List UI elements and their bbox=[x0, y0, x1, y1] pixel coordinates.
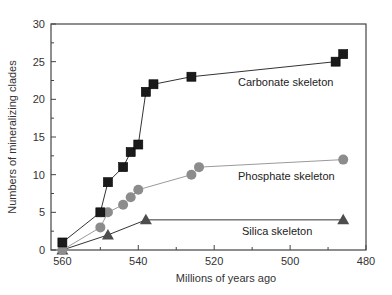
y-tick-label: 30 bbox=[33, 18, 45, 30]
label-silica: Silica skeleton bbox=[242, 225, 312, 237]
square-marker bbox=[103, 178, 112, 187]
line-chart: 051015202530 560540520500480 Carbonate s… bbox=[0, 0, 392, 295]
y-axis: 051015202530 bbox=[33, 18, 56, 256]
circle-marker bbox=[194, 162, 204, 172]
x-tick-label: 560 bbox=[53, 255, 71, 267]
triangle-marker bbox=[337, 214, 349, 225]
square-marker bbox=[134, 140, 143, 149]
x-tick-label: 480 bbox=[357, 255, 375, 267]
circle-marker bbox=[126, 192, 136, 202]
triangle-marker bbox=[140, 214, 152, 225]
y-tick-label: 0 bbox=[39, 244, 45, 256]
y-tick-label: 25 bbox=[33, 56, 45, 68]
label-phosphate: Phosphate skeleton bbox=[238, 170, 335, 182]
y-tick-label: 15 bbox=[33, 131, 45, 143]
circle-marker bbox=[118, 200, 128, 210]
circle-marker bbox=[186, 170, 196, 180]
x-tick-label: 520 bbox=[205, 255, 223, 267]
y-tick-label: 20 bbox=[33, 93, 45, 105]
square-marker bbox=[339, 50, 348, 59]
square-marker bbox=[119, 163, 128, 172]
circle-marker bbox=[338, 155, 348, 165]
square-marker bbox=[187, 72, 196, 81]
label-carbonate: Carbonate skeleton bbox=[238, 76, 333, 88]
square-marker bbox=[58, 238, 67, 247]
square-marker bbox=[149, 80, 158, 89]
y-tick-label: 5 bbox=[39, 206, 45, 218]
y-tick-label: 10 bbox=[33, 169, 45, 181]
circle-marker bbox=[133, 185, 143, 195]
x-axis: 560540520500480 bbox=[53, 245, 375, 267]
square-marker bbox=[96, 208, 105, 217]
x-tick-label: 540 bbox=[129, 255, 147, 267]
x-tick-label: 500 bbox=[281, 255, 299, 267]
x-axis-title: Millions of years ago bbox=[176, 272, 276, 284]
y-axis-title: Numbers of mineralizing clades bbox=[6, 60, 18, 214]
circle-marker bbox=[95, 222, 105, 232]
